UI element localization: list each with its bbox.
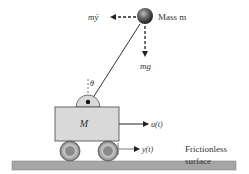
surface-label-line2: surface <box>185 156 211 166</box>
surface-label-line1: Frictionless <box>185 144 227 154</box>
pendulum-cart-diagram: θ M u(t) y(t) Frictionless surface mÿ mg… <box>0 0 249 174</box>
wheel-left <box>60 141 80 161</box>
input-force-label: u(t) <box>151 120 163 129</box>
pivot-point <box>86 100 90 104</box>
angle-theta-label: θ <box>90 79 94 88</box>
position-label: y(t) <box>141 145 153 154</box>
pendulum-mass-ball <box>137 8 153 24</box>
gravity-force-label: mg <box>140 61 151 71</box>
cart-mass-label: M <box>79 118 89 129</box>
inertial-force-label: mÿ <box>88 12 99 22</box>
pendulum-rod <box>89 24 140 104</box>
wheel-right <box>98 141 118 161</box>
mass-label: Mass m <box>158 12 186 22</box>
